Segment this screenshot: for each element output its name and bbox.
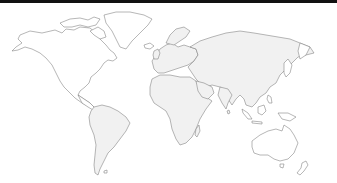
new-zealand (297, 161, 308, 175)
borneo (258, 105, 266, 115)
scandinavia (166, 27, 190, 45)
new-guinea (278, 113, 296, 121)
sri-lanka (227, 110, 230, 114)
falkland-islands (104, 170, 107, 173)
greenland (104, 12, 152, 49)
java (252, 121, 262, 124)
arctic-islands (60, 17, 100, 27)
kamchatka (298, 43, 310, 59)
world-map-svg (0, 3, 337, 183)
philippines (267, 95, 272, 103)
south-america (89, 105, 130, 175)
tasmania (280, 164, 284, 168)
iceland (144, 43, 154, 49)
north-america (12, 27, 117, 107)
australia (252, 125, 298, 161)
sumatra (242, 109, 252, 119)
world-map (0, 3, 337, 183)
